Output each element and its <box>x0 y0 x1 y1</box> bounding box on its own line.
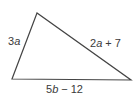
side-label-left: 3a <box>8 36 20 47</box>
side-label-bottom: 5b−12 <box>46 84 83 95</box>
bottom-operator: − <box>58 83 70 95</box>
triangle-diagram: 3a 2a+7 5b−12 <box>0 0 138 96</box>
side-label-right: 2a+7 <box>90 38 121 49</box>
left-var: a <box>14 35 20 47</box>
right-const: 7 <box>115 37 121 49</box>
right-operator: + <box>102 37 114 49</box>
bottom-const: 12 <box>71 83 83 95</box>
